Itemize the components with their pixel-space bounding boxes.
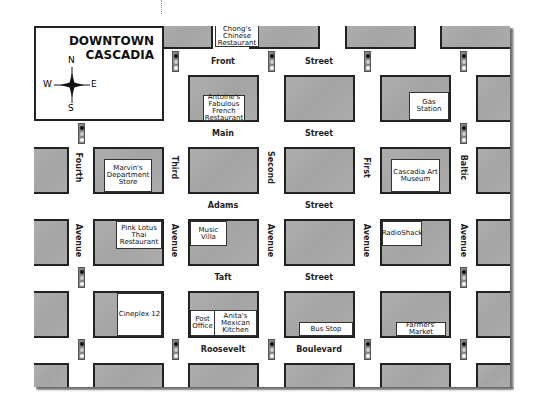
block-r4-c0 [34, 291, 69, 338]
poi-cascadia-art-museum[interactable]: Cascadia Art Museum [391, 159, 440, 192]
traffic-light-icon [460, 339, 467, 360]
block-r5-c3 [284, 363, 355, 387]
poi-farmers-market[interactable]: Farmers' Market [396, 322, 446, 336]
poi-radioshack[interactable]: RadioShack [382, 221, 422, 246]
poi-post-office[interactable]: Post Office [190, 310, 215, 336]
traffic-light-icon [460, 51, 467, 72]
traffic-light-icon [268, 339, 275, 360]
block-r0-c3 [249, 26, 320, 49]
compass-rose-icon: N S E W [42, 55, 102, 115]
poi-chongs-chinese-restaurant[interactable]: Chong's Chinese Restaurant [215, 26, 259, 47]
map-shadow-right [510, 28, 514, 389]
street-label-roosevelt: Roosevelt [194, 345, 252, 354]
block-r5-c1 [93, 363, 164, 387]
block-r3-c5 [476, 219, 510, 266]
street-label-front: Front [203, 57, 243, 66]
street-label-roosevelt-suffix: Boulevard [290, 345, 348, 354]
traffic-light-icon [460, 123, 467, 144]
compass-south: S [68, 103, 74, 113]
block-r3-c0 [34, 219, 69, 266]
poi-anitas-mexican-kitchen[interactable]: Anita's Mexican Kitchen [214, 310, 257, 336]
street-label-front-suffix: Street [299, 57, 339, 66]
poi-pink-lotus-thai-restaurant[interactable]: Pink Lotus Thai Restaurant [116, 221, 162, 249]
avenue-label-third-suffix: Avenue [170, 221, 179, 261]
avenue-label-fourth: Fourth [74, 148, 83, 188]
street-label-adams-suffix: Street [299, 201, 339, 210]
poi-music-villa[interactable]: Music Villa [190, 221, 227, 246]
compass-north: N [68, 55, 75, 65]
poi-gas-station[interactable]: Gas Station [409, 92, 449, 120]
block-r5-c4 [380, 363, 451, 387]
traffic-light-icon [268, 51, 275, 72]
traffic-light-icon [78, 123, 85, 144]
block-r3-c3 [284, 219, 355, 266]
poi-bus-stop[interactable]: Bus Stop [299, 322, 353, 336]
avenue-label-baltic: Baltic [459, 148, 468, 188]
dotted-guide-line [161, 0, 162, 14]
block-r2-c5 [476, 147, 510, 194]
poi-cineplex-12[interactable]: Cineplex 12 [117, 293, 162, 336]
block-r2-c2 [188, 147, 259, 194]
poi-marvins-department-store[interactable]: Marvin's Department Store [104, 159, 152, 192]
traffic-light-icon [172, 339, 179, 360]
map-title-box: DOWNTOWN CASCADIA N S E W [34, 26, 164, 121]
block-r5-c2 [188, 363, 259, 387]
avenue-label-third: Third [170, 148, 179, 188]
block-r1-c5 [476, 75, 510, 122]
avenue-label-first-suffix: Avenue [362, 221, 371, 261]
block-r0-c5 [440, 26, 510, 49]
street-label-adams: Adams [203, 201, 243, 210]
street-label-main: Main [203, 129, 243, 138]
traffic-light-icon [78, 267, 85, 288]
traffic-light-icon [460, 267, 467, 288]
poi-antoines-french-restaurant[interactable]: Antoine's Fabulous French Restaurant [203, 95, 245, 121]
block-r0-c4 [345, 26, 416, 49]
traffic-light-icon [172, 51, 179, 72]
compass-west: W [43, 79, 52, 89]
block-r5-c0 [34, 363, 69, 387]
block-r5-c5 [476, 363, 510, 387]
map-shadow-bottom [36, 387, 514, 390]
compass-east: E [91, 79, 97, 89]
avenue-label-second: Second [266, 148, 275, 188]
block-r2-c3 [284, 147, 355, 194]
street-label-taft: Taft [203, 273, 243, 282]
block-r4-c5 [476, 291, 510, 338]
block-r1-c3 [284, 75, 355, 122]
avenue-label-fourth-suffix: Avenue [74, 221, 83, 261]
street-label-main-suffix: Street [299, 129, 339, 138]
avenue-label-second-suffix: Avenue [266, 221, 275, 261]
traffic-light-icon [364, 339, 371, 360]
traffic-light-icon [364, 51, 371, 72]
avenue-label-first: First [362, 148, 371, 188]
traffic-light-icon [78, 339, 85, 360]
street-label-taft-suffix: Street [299, 273, 339, 282]
block-r2-c0 [34, 147, 69, 194]
avenue-label-baltic-suffix: Avenue [459, 221, 468, 261]
